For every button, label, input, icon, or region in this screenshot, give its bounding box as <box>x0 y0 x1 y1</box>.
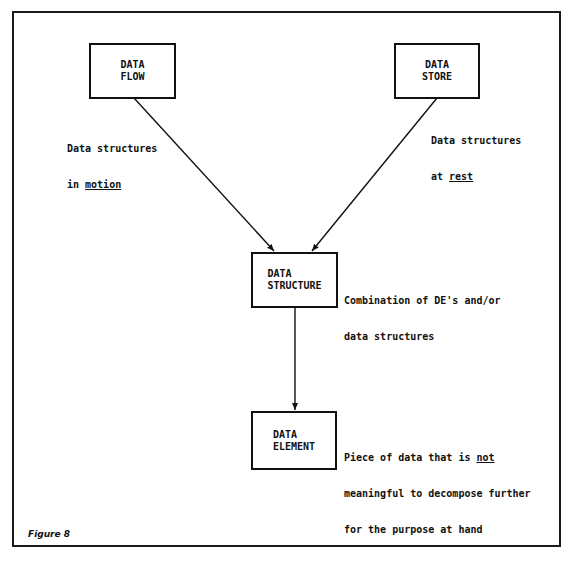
data-store-note: Data structures at rest <box>431 111 521 195</box>
data-flow-label-line1: DATA <box>120 59 144 71</box>
data-element-box: DATA ELEMENT <box>251 411 337 470</box>
emphasis-not: not <box>476 452 494 463</box>
data-element-note: Piece of data that is not meaningful to … <box>344 428 531 548</box>
data-structure-note: Combination of DE's and/or data structur… <box>344 271 501 355</box>
arrow-store-to-structure <box>312 98 437 251</box>
emphasis-motion: motion <box>85 179 121 190</box>
figure-caption: Figure 8 <box>28 529 70 539</box>
data-structure-label-line2: STRUCTURE <box>267 280 321 292</box>
data-structure-label-line1: DATA <box>267 268 321 280</box>
data-store-label-line2: STORE <box>422 71 452 83</box>
data-store-box: DATA STORE <box>394 43 480 99</box>
data-element-label-line1: DATA <box>273 429 315 441</box>
data-structure-box: DATA STRUCTURE <box>251 252 338 308</box>
data-store-label-line1: DATA <box>422 59 452 71</box>
data-flow-note: Data structures in motion <box>67 119 157 203</box>
emphasis-rest: rest <box>449 171 473 182</box>
data-flow-label-line2: FLOW <box>120 71 144 83</box>
data-element-label-line2: ELEMENT <box>273 441 315 453</box>
data-flow-box: DATA FLOW <box>89 43 176 99</box>
